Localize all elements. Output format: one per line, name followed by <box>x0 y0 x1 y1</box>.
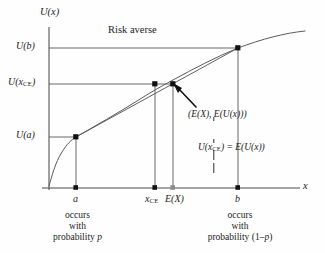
caption-right-line3-suffix: ) <box>269 232 272 242</box>
chord-line <box>76 48 238 137</box>
caption-right-line2: with <box>185 221 295 232</box>
tick-marker-a <box>73 185 78 190</box>
caption-right-line1: occurs <box>185 210 295 221</box>
ce-annotation-sub: CE <box>212 145 221 152</box>
tick-marker-ex <box>170 185 175 190</box>
x-tick-label-ex: E(X) <box>165 194 184 204</box>
x-tick-label-b-text: b <box>235 193 240 204</box>
caption-left-line2: with <box>30 221 125 232</box>
y-tick-label-ub: U(b) <box>16 41 35 51</box>
y-tick-label-ua-text: U(a) <box>16 129 35 140</box>
caption-left-line3-prefix: probability <box>53 232 97 242</box>
caption-left: occurs with probability p <box>30 210 125 244</box>
risk-averse-utility-figure: Risk averse U(x) x U(b) U(xCE) U(a) a xC… <box>0 0 325 253</box>
annotation-arrow <box>173 83 196 107</box>
certainty-equivalence-annotation: U(xCE) = E(U(x)) <box>198 143 265 153</box>
x-tick-label-xce-sub: CE <box>149 197 158 204</box>
x-tick-label-ex-text: E(X) <box>165 193 184 204</box>
tick-marker-b <box>235 185 240 190</box>
y-tick-label-uxce-sub: CE <box>23 80 32 87</box>
x-tick-label-xce: xCE <box>145 194 159 205</box>
x-tick-label-a-text: a <box>73 193 78 204</box>
marker-point-xce <box>152 81 157 86</box>
expected-point-annotation: (E(X), E(U(x))) <box>188 110 247 120</box>
x-tick-label-a: a <box>73 194 78 204</box>
axis-lines <box>42 27 300 190</box>
marker-point-a <box>73 134 78 139</box>
caption-left-line3: probability p <box>30 232 125 243</box>
y-tick-label-ua: U(a) <box>16 130 35 140</box>
caption-right-line3-prefix: probability (1– <box>208 232 265 242</box>
chart-title: Risk averse <box>108 24 157 35</box>
x-tick-label-b: b <box>235 194 240 204</box>
marker-point-b <box>235 45 240 50</box>
y-tick-label-uxce-base: U(x <box>8 76 23 87</box>
expected-point-annotation-text: (E(X), E(U(x))) <box>188 109 247 119</box>
ce-annotation-suffix: ) = E(U(x)) <box>221 142 265 152</box>
x-axis-label-text: x <box>303 180 308 191</box>
caption-left-line1: occurs <box>30 210 125 221</box>
y-axis-label-text: U(x) <box>40 6 59 17</box>
y-tick-label-ub-text: U(b) <box>16 40 35 51</box>
ce-annotation-prefix: U(x <box>198 142 212 152</box>
utility-curve <box>49 31 305 186</box>
y-axis-label: U(x) <box>40 7 59 18</box>
caption-right: occurs with probability (1–p) <box>185 210 295 244</box>
y-tick-label-uxce: U(xCE) <box>8 77 35 88</box>
marker-point-expected <box>170 81 175 86</box>
x-axis-label: x <box>303 181 308 192</box>
caption-right-line3: probability (1–p) <box>185 232 295 243</box>
tick-marker-xce <box>152 185 157 190</box>
y-tick-label-uxce-tail: ) <box>32 76 35 87</box>
caption-left-line3-italic: p <box>97 232 102 242</box>
